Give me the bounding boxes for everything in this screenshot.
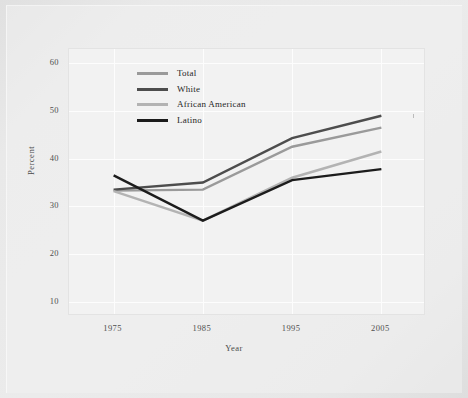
x-tick-label-1995: 1995 [268,323,314,333]
legend-item-african-american: African American [137,97,307,113]
legend-swatch-icon [137,119,168,122]
x-tick-label-2005: 2005 [357,323,403,333]
figure-canvas: 102030405060 Percent 1975198519952005 Ye… [0,0,468,398]
legend-item-label: African American [177,100,246,109]
y-tick-label-50: 50 [33,105,59,115]
legend-item-total: Total [137,66,307,82]
legend-item-label: White [177,85,200,94]
legend-swatch-icon [137,88,168,91]
scan-artifact-speck [413,114,414,118]
y-tick-label-10: 10 [33,296,59,306]
legend-item-white: White [137,82,307,98]
x-tick-label-1975: 1975 [90,323,136,333]
y-axis-title: Percent [26,146,36,175]
y-tick-label-30: 30 [33,200,59,210]
series-line-latino [114,169,382,220]
legend-item-label: Total [177,69,197,78]
x-axis-title: Year [0,343,468,353]
chart-legend: TotalWhiteAfrican AmericanLatino [137,66,307,128]
legend-swatch-icon [137,103,168,106]
legend-swatch-icon [137,72,168,75]
legend-item-latino: Latino [137,113,307,129]
y-tick-label-20: 20 [33,248,59,258]
x-tick-label-1985: 1985 [179,323,225,333]
y-tick-label-40: 40 [33,153,59,163]
y-tick-label-60: 60 [33,57,59,67]
legend-item-label: Latino [177,116,202,125]
